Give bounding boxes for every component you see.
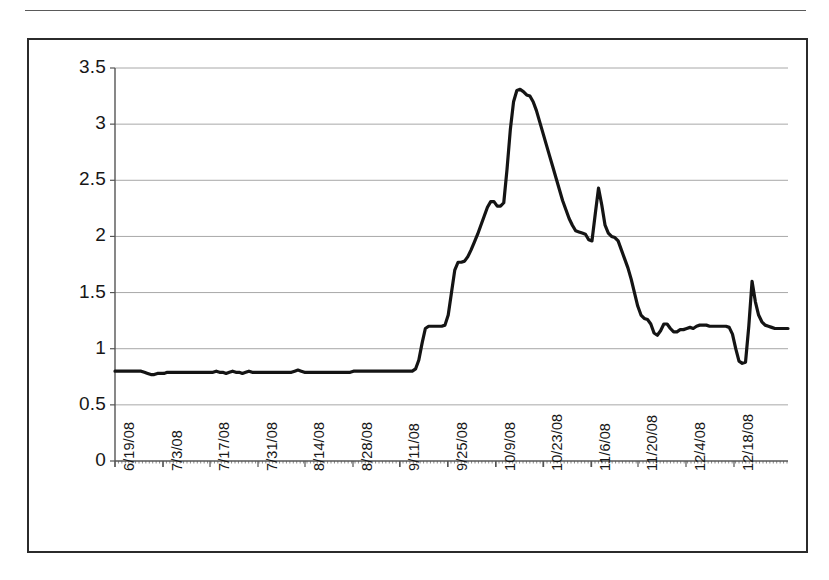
y-tick-label: 0.5 [79,393,106,415]
x-tick-label: 10/23/08 [549,414,565,471]
x-tick-label: 8/28/08 [359,422,375,471]
x-tick-label: 8/14/08 [311,422,327,471]
x-tick-label: 11/6/08 [597,423,613,471]
y-tick-label: 0 [95,449,106,471]
x-tick-label: 11/20/08 [644,415,660,471]
line-chart [0,0,829,580]
series-line [115,89,788,374]
x-tick-label: 7/31/08 [264,422,280,471]
x-tick-label: 10/9/08 [502,422,518,471]
y-axis-ticks [110,68,115,461]
y-tick-label: 1.5 [79,281,106,303]
y-tick-label: 3 [95,112,106,134]
y-tick-label: 1 [95,337,106,359]
x-tick-label: 7/17/08 [216,422,232,471]
x-tick-label: 12/4/08 [692,422,708,471]
x-tick-label: 9/11/08 [406,423,422,471]
x-tick-label: 9/25/08 [454,422,470,471]
gridlines [115,68,788,405]
x-tick-label: 7/3/08 [169,430,185,471]
x-tick-label: 12/18/08 [740,414,756,471]
y-tick-label: 3.5 [79,56,106,78]
x-tick-label: 6/19/08 [121,422,137,471]
data-series-spread [115,89,788,374]
axis-lines [115,68,788,461]
y-tick-label: 2 [95,224,106,246]
y-tick-label: 2.5 [79,168,106,190]
figure-page: 00.511.522.533.5 6/19/087/3/087/17/087/3… [0,0,829,580]
